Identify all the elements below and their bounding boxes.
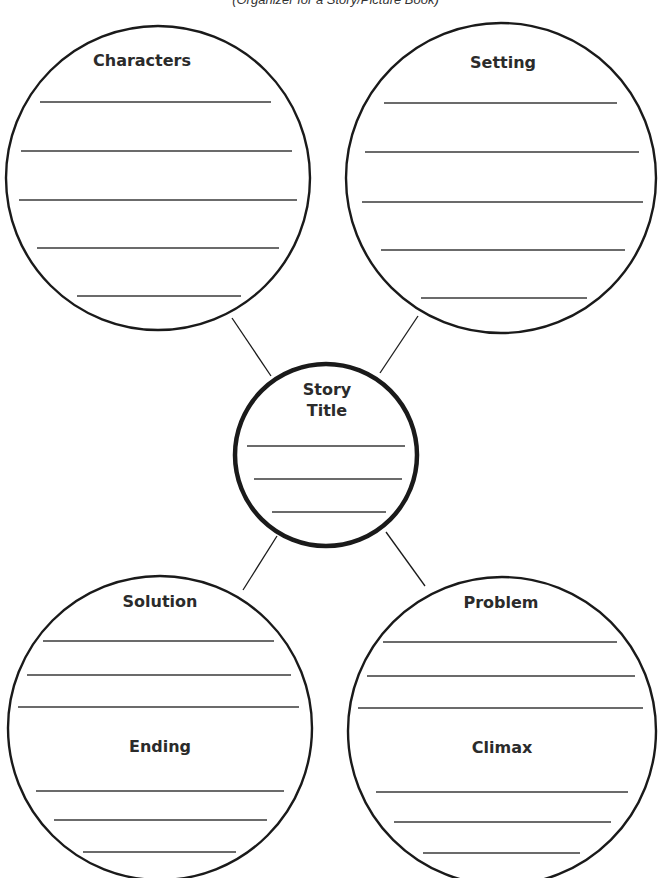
heading-story-title: Story Title [303, 379, 351, 421]
connector-solution [243, 536, 277, 590]
connector-setting [380, 316, 418, 373]
bubble-characters [6, 26, 310, 330]
heading-story-title-line1: Story [303, 379, 351, 400]
heading-problem: Problem [463, 593, 538, 612]
heading-ending: Ending [129, 737, 191, 756]
bubble-problem-outline [348, 577, 656, 878]
bubble-solution [8, 576, 312, 878]
heading-climax: Climax [472, 738, 533, 757]
connector-problem [386, 532, 425, 586]
heading-story-title-line2: Title [303, 400, 351, 421]
connector-characters [232, 318, 271, 376]
bubble-characters-outline [6, 26, 310, 330]
heading-solution: Solution [123, 592, 198, 611]
bubble-problem [348, 577, 656, 878]
heading-setting: Setting [470, 53, 536, 72]
bubble-solution-outline [8, 576, 312, 878]
heading-characters: Characters [93, 51, 191, 70]
story-map-diagram [0, 0, 671, 878]
